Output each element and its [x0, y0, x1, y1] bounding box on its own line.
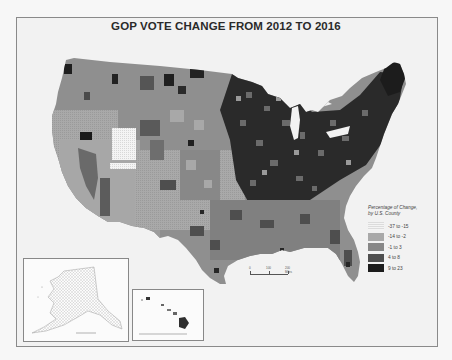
legend-item: 4 to 8	[368, 253, 448, 264]
scale-bar: 0 100 200 Miles	[250, 268, 290, 278]
hawaii-map	[133, 290, 203, 340]
hawaii-inset	[132, 289, 204, 341]
legend-swatch	[368, 222, 384, 230]
legend-swatch	[368, 243, 384, 251]
legend: Percentage of Change, by U.S. County -37…	[368, 205, 448, 274]
legend-item: -14 to -2	[368, 232, 448, 243]
legend-swatch	[368, 264, 384, 272]
legend-swatch	[368, 254, 384, 262]
legend-item: 9 to 23	[368, 263, 448, 274]
alaska-map	[24, 259, 128, 341]
legend-item: -1 to 3	[368, 242, 448, 253]
legend-item: -37 to -15	[368, 221, 448, 232]
legend-swatch	[368, 233, 384, 241]
alaska-inset	[23, 258, 129, 342]
legend-title: Percentage of Change, by U.S. County	[368, 205, 448, 217]
map-title: GOP VOTE CHANGE FROM 2012 TO 2016	[0, 20, 452, 32]
